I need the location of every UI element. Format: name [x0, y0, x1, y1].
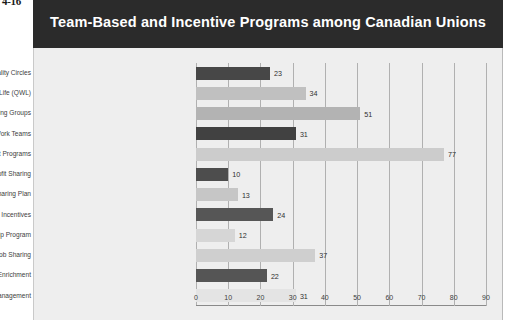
category-label: Problem-Solving Groups — [0, 110, 31, 117]
x-axis-line — [196, 305, 486, 306]
category-label: Employee Stock Ownership Program — [0, 232, 31, 239]
bar-row: 77 — [196, 148, 486, 161]
bar-value-label: 77 — [448, 150, 456, 159]
bar-row: 24 — [196, 208, 486, 221]
bar — [196, 107, 360, 120]
category-label: Group/Team Incentives — [0, 212, 31, 219]
category-label: Total Quality Management — [0, 293, 31, 300]
x-tick-label: 0 — [184, 294, 208, 301]
category-label: Work Teams — [0, 131, 31, 138]
bar — [196, 148, 444, 161]
bar-value-label: 10 — [232, 170, 240, 179]
gridline — [486, 63, 487, 306]
bar-row: 51 — [196, 107, 486, 120]
bar — [196, 249, 315, 262]
x-tick-label: 20 — [248, 294, 272, 301]
bar-row: 13 — [196, 188, 486, 201]
bar-value-label: 22 — [271, 272, 279, 281]
bar — [196, 168, 228, 181]
x-tick-label: 50 — [345, 294, 369, 301]
bar — [196, 269, 267, 282]
bar-value-label: 31 — [300, 130, 308, 139]
chart-plot-wrapper: 233451317710132412372231 % of Union Barg… — [33, 48, 503, 320]
x-tick-label: 40 — [313, 294, 337, 301]
bar — [196, 67, 270, 80]
x-tick-label: 90 — [474, 294, 498, 301]
category-label: Employee/Management Joint Programs — [0, 151, 31, 158]
bar-row: 22 — [196, 269, 486, 282]
bar-row: 23 — [196, 67, 486, 80]
bar — [196, 208, 273, 221]
bar — [196, 87, 306, 100]
chart-title: Team-Based and Incentive Programs among … — [33, 14, 503, 30]
x-tick-label: 10 — [216, 294, 240, 301]
x-tick-label: 30 — [281, 294, 305, 301]
category-label: Job Enlargement/Enrichment — [0, 272, 31, 279]
bar — [196, 188, 238, 201]
bar-value-label: 12 — [239, 231, 247, 240]
bar-row: 37 — [196, 249, 486, 262]
x-tick-label: 80 — [442, 294, 466, 301]
bar-value-label: 34 — [310, 89, 318, 98]
bar-row: 10 — [196, 168, 486, 181]
bar-value-label: 37 — [319, 251, 327, 260]
category-label: Quality of Work Life (QWL) — [0, 90, 31, 97]
category-label: Job Sharing — [0, 252, 31, 259]
bar-value-label: 24 — [277, 211, 285, 220]
figure-number: 4-16 — [2, 0, 21, 7]
bar-value-label: 23 — [274, 69, 282, 78]
category-label: Profit Sharing — [0, 171, 31, 178]
title-bar: Team-Based and Incentive Programs among … — [33, 0, 503, 48]
bar-row: 34 — [196, 87, 486, 100]
bar-row: 12 — [196, 229, 486, 242]
bar — [196, 229, 235, 242]
bar — [196, 127, 296, 140]
bar-value-label: 13 — [242, 191, 250, 200]
bar-value-label: 51 — [364, 110, 372, 119]
x-tick-label: 60 — [377, 294, 401, 301]
plot-area: 233451317710132412372231 — [196, 63, 486, 306]
category-label: Productivity Sharing Plan — [0, 191, 31, 198]
x-tick-label: 70 — [410, 294, 434, 301]
category-label: Quality Circles — [0, 70, 31, 77]
bar-row: 31 — [196, 127, 486, 140]
